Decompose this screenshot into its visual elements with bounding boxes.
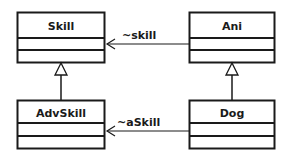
uml-diagram: Skill Ani AdvSkill Dog ~skill <box>0 0 290 161</box>
hollow-triangle-icon <box>226 63 238 75</box>
class-dog-name: Dog <box>220 107 245 120</box>
association-ani-skill: ~skill <box>107 29 189 49</box>
class-ani-name: Ani <box>222 20 242 33</box>
generalization-dog-ani <box>226 63 238 100</box>
class-advskill[interactable]: AdvSkill <box>18 101 105 149</box>
class-advskill-name: AdvSkill <box>36 107 86 120</box>
association-label-askill: ~aSkill <box>117 116 160 129</box>
class-dog[interactable]: Dog <box>190 101 275 149</box>
association-dog-advskill: ~aSkill <box>107 116 189 136</box>
class-skill[interactable]: Skill <box>18 13 105 63</box>
generalization-advskill-skill <box>55 63 67 100</box>
hollow-triangle-icon <box>55 63 67 75</box>
association-label-skill: ~skill <box>122 29 156 42</box>
class-skill-name: Skill <box>48 20 75 33</box>
class-ani[interactable]: Ani <box>190 13 275 63</box>
